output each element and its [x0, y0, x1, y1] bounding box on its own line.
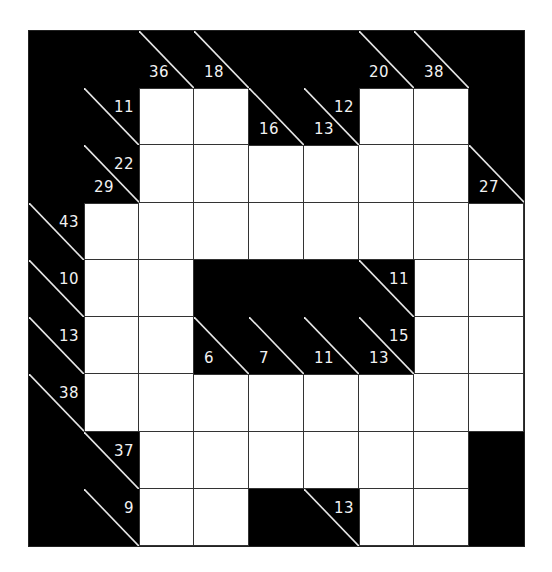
across-clue: 15	[389, 329, 409, 344]
clue-cell: 6	[194, 317, 249, 374]
clue-cell: 1213	[304, 88, 359, 145]
entry-cell[interactable]	[359, 489, 414, 546]
entry-cell[interactable]	[249, 203, 304, 260]
entry-cell[interactable]	[249, 432, 304, 489]
diagonal-divider	[304, 489, 359, 546]
diagonal-divider	[84, 88, 139, 145]
entry-cell[interactable]	[469, 374, 524, 431]
clue-cell: 36	[139, 31, 194, 88]
clue-cell: 20	[359, 31, 414, 88]
entry-cell[interactable]	[84, 374, 139, 431]
entry-cell[interactable]	[359, 145, 414, 202]
down-clue: 13	[369, 351, 389, 366]
block-cell	[194, 260, 249, 317]
entry-cell[interactable]	[469, 317, 524, 374]
clue-cell: 11	[304, 317, 359, 374]
clue-cell: 37	[84, 432, 139, 489]
entry-cell[interactable]	[304, 374, 359, 431]
entry-cell[interactable]	[194, 432, 249, 489]
down-clue: 20	[369, 65, 389, 80]
block-cell	[469, 88, 524, 145]
clue-cell: 38	[414, 31, 469, 88]
diagonal-divider	[29, 203, 84, 260]
down-clue: 29	[94, 180, 114, 195]
entry-cell[interactable]	[359, 374, 414, 431]
entry-cell[interactable]	[194, 88, 249, 145]
entry-cell[interactable]	[249, 145, 304, 202]
block-cell	[469, 489, 524, 546]
entry-cell[interactable]	[414, 88, 469, 145]
across-clue: 37	[114, 444, 134, 459]
diagonal-divider	[249, 317, 304, 374]
block-cell	[249, 31, 304, 88]
across-clue: 43	[59, 215, 79, 230]
kakuro-board: 3618203811161213222927431011136711151338…	[28, 30, 525, 547]
entry-cell[interactable]	[84, 260, 139, 317]
entry-cell[interactable]	[139, 374, 194, 431]
down-clue: 36	[149, 65, 169, 80]
block-cell	[29, 88, 84, 145]
clue-cell: 10	[29, 260, 84, 317]
block-cell	[29, 432, 84, 489]
entry-cell[interactable]	[414, 203, 469, 260]
entry-cell[interactable]	[304, 432, 359, 489]
clue-cell: 11	[84, 88, 139, 145]
clue-cell: 1513	[359, 317, 414, 374]
clue-cell: 27	[469, 145, 524, 202]
down-clue: 16	[259, 122, 279, 137]
block-cell	[304, 260, 359, 317]
diagonal-divider	[84, 432, 139, 489]
diagonal-divider	[84, 489, 139, 546]
entry-cell[interactable]	[139, 88, 194, 145]
entry-cell[interactable]	[304, 203, 359, 260]
across-clue: 13	[59, 329, 79, 344]
entry-cell[interactable]	[414, 432, 469, 489]
entry-cell[interactable]	[359, 203, 414, 260]
entry-cell[interactable]	[139, 203, 194, 260]
entry-cell[interactable]	[194, 489, 249, 546]
entry-cell[interactable]	[414, 374, 469, 431]
diagonal-divider	[29, 374, 84, 431]
block-cell	[249, 260, 304, 317]
clue-cell: 13	[304, 489, 359, 546]
entry-cell[interactable]	[304, 145, 359, 202]
entry-cell[interactable]	[469, 260, 524, 317]
entry-cell[interactable]	[414, 489, 469, 546]
clue-cell: 11	[359, 260, 414, 317]
across-clue: 9	[124, 501, 134, 516]
clue-cell: 9	[84, 489, 139, 546]
entry-cell[interactable]	[139, 145, 194, 202]
clue-cell: 38	[29, 374, 84, 431]
clue-cell: 16	[249, 88, 304, 145]
down-clue: 7	[259, 351, 269, 366]
entry-cell[interactable]	[194, 145, 249, 202]
entry-cell[interactable]	[359, 432, 414, 489]
block-cell	[469, 432, 524, 489]
across-clue: 11	[389, 272, 409, 287]
across-clue: 13	[334, 501, 354, 516]
entry-cell[interactable]	[469, 203, 524, 260]
across-clue: 11	[114, 100, 134, 115]
across-clue: 22	[114, 157, 134, 172]
clue-cell: 43	[29, 203, 84, 260]
down-clue: 27	[479, 180, 499, 195]
entry-cell[interactable]	[84, 203, 139, 260]
entry-cell[interactable]	[194, 374, 249, 431]
entry-cell[interactable]	[249, 374, 304, 431]
clue-cell: 7	[249, 317, 304, 374]
diagonal-divider	[29, 260, 84, 317]
entry-cell[interactable]	[414, 317, 469, 374]
entry-cell[interactable]	[414, 145, 469, 202]
entry-cell[interactable]	[84, 317, 139, 374]
entry-cell[interactable]	[139, 260, 194, 317]
clue-cell: 2229	[84, 145, 139, 202]
entry-cell[interactable]	[139, 317, 194, 374]
entry-cell[interactable]	[359, 88, 414, 145]
diagonal-divider	[194, 317, 249, 374]
entry-cell[interactable]	[414, 260, 469, 317]
entry-cell[interactable]	[139, 432, 194, 489]
entry-cell[interactable]	[194, 203, 249, 260]
entry-cell[interactable]	[139, 489, 194, 546]
diagonal-divider	[359, 260, 414, 317]
down-clue: 38	[424, 65, 444, 80]
